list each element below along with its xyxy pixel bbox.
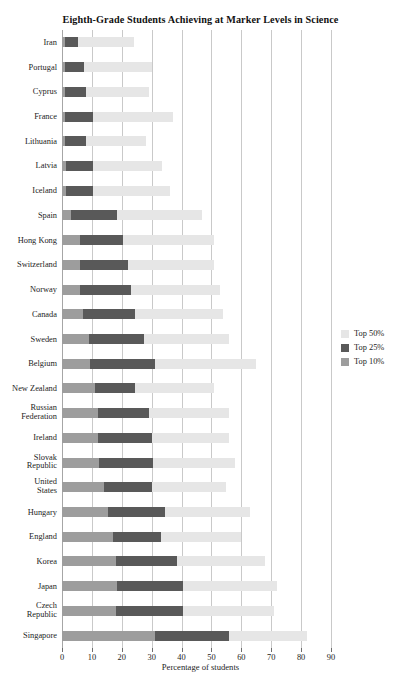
category-label: Cyprus [0, 87, 57, 96]
category-label: Iceland [0, 186, 57, 195]
category-label: Lithuania [0, 137, 57, 146]
x-axis-tick [92, 648, 93, 652]
bar-group [62, 37, 331, 47]
category-label: Japan [0, 582, 57, 591]
bar-group [62, 87, 331, 97]
x-axis-tick-label: 0 [50, 653, 74, 662]
bar-segment [62, 62, 65, 72]
bar-group [62, 309, 331, 319]
legend-swatch-icon [341, 330, 349, 338]
bar-segment [62, 334, 89, 344]
bar-group [62, 532, 331, 542]
x-axis-tick [152, 648, 153, 652]
x-axis-tick [301, 648, 302, 652]
bar-segment [62, 235, 80, 245]
bar-group [62, 507, 331, 517]
x-axis-tick [122, 648, 123, 652]
x-axis-tick [271, 648, 272, 652]
bar-group [62, 62, 331, 72]
x-axis-tick [182, 648, 183, 652]
bar-segment [62, 408, 98, 418]
legend-label: Top 50% [354, 327, 384, 341]
bar-segment [62, 87, 65, 97]
legend-swatch-icon [341, 358, 349, 366]
category-label: Korea [0, 557, 57, 566]
x-axis-tick [241, 648, 242, 652]
category-label: France [0, 112, 57, 121]
bar-group [62, 136, 331, 146]
legend-item[interactable]: Top 50% [341, 327, 401, 341]
bar-segment [62, 606, 116, 616]
category-label: Sweden [0, 335, 57, 344]
category-label: SlovakRepublic [0, 454, 57, 471]
bar-group [62, 112, 331, 122]
bar-segment [62, 260, 80, 270]
x-axis-tick-label: 70 [259, 653, 283, 662]
bar-segment [62, 62, 84, 72]
x-axis-tick-label: 60 [229, 653, 253, 662]
legend-label: Top 10% [354, 355, 384, 369]
bar-group [62, 359, 331, 369]
bar-segment [62, 161, 66, 171]
category-label: RussianFederation [0, 404, 57, 421]
chart-container: Eighth-Grade Students Achieving at Marke… [0, 0, 401, 681]
legend-label: Top 25% [354, 341, 384, 355]
bar-segment [62, 186, 93, 196]
bar-group [62, 631, 331, 641]
category-label: New Zealand [0, 384, 57, 393]
bar-segment [62, 482, 104, 492]
category-label: England [0, 532, 57, 541]
category-label: Hungary [0, 508, 57, 517]
bar-segment [62, 458, 99, 468]
category-label: Latvia [0, 161, 57, 170]
x-axis-tick [62, 648, 63, 652]
bar-group [62, 482, 331, 492]
x-axis-tick [211, 648, 212, 652]
bar-segment [62, 433, 98, 443]
x-axis-tick-label: 10 [80, 653, 104, 662]
bar-group [62, 260, 331, 270]
category-label: UnitedStates [0, 478, 57, 495]
bar-group [62, 210, 331, 220]
category-label: Singapore [0, 631, 57, 640]
x-axis-tick-label: 80 [289, 653, 313, 662]
bar-segment [62, 87, 86, 97]
x-axis-tick-label: 20 [110, 653, 134, 662]
bar-group [62, 408, 331, 418]
chart-legend: Top 50%Top 25%Top 10% [341, 327, 401, 369]
bar-segment [62, 136, 65, 146]
bar-segment [62, 532, 113, 542]
category-label: Belgium [0, 359, 57, 368]
bar-group [62, 458, 331, 468]
legend-item[interactable]: Top 10% [341, 355, 401, 369]
plot-area [62, 30, 331, 648]
bar-segment [62, 285, 80, 295]
bar-segment [62, 631, 155, 641]
bar-group [62, 334, 331, 344]
x-axis-title: Percentage of students [0, 662, 401, 672]
bar-segment [62, 210, 71, 220]
legend-item[interactable]: Top 25% [341, 341, 401, 355]
bar-segment [62, 136, 86, 146]
bar-segment [62, 112, 65, 122]
category-label: Iran [0, 38, 57, 47]
x-axis-tick-label: 30 [140, 653, 164, 662]
bar-group [62, 606, 331, 616]
bar-segment [62, 37, 65, 47]
bar-group [62, 186, 331, 196]
category-label: Hong Kong [0, 236, 57, 245]
bar-segment [62, 112, 93, 122]
bar-segment [62, 161, 93, 171]
bar-group [62, 235, 331, 245]
bar-segment [62, 383, 95, 393]
bar-group [62, 556, 331, 566]
x-axis-tick-label: 40 [170, 653, 194, 662]
bar-segment [62, 309, 83, 319]
category-label: CzechRepublic [0, 602, 57, 619]
bar-segment [62, 581, 117, 591]
chart-title: Eighth-Grade Students Achieving at Marke… [0, 14, 401, 25]
bar-group [62, 383, 331, 393]
category-label: Switzerland [0, 260, 57, 269]
gridline [331, 30, 332, 648]
category-label: Ireland [0, 433, 57, 442]
